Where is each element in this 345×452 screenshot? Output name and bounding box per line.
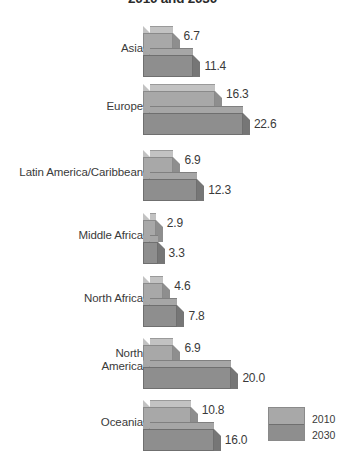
value-label-2010: 2.9 bbox=[167, 216, 183, 230]
bar-top-face bbox=[143, 26, 150, 33]
bar-side-face bbox=[177, 305, 184, 312]
bar-top-face bbox=[143, 150, 150, 157]
bar-top-face bbox=[143, 84, 150, 91]
category-label: Asia bbox=[121, 42, 143, 55]
bar-top-fill bbox=[150, 48, 193, 55]
bar-side-face bbox=[214, 429, 221, 436]
bar-top-fill bbox=[150, 84, 215, 91]
bar-top-face bbox=[143, 213, 150, 220]
bar-2030 bbox=[143, 242, 158, 264]
value-label-2010: 4.6 bbox=[174, 279, 190, 293]
legend-label-2030: 2030 bbox=[312, 429, 335, 441]
bar-side-fill bbox=[193, 62, 200, 77]
category-label: North Africa bbox=[84, 292, 143, 305]
value-label-2010: 6.9 bbox=[184, 153, 200, 167]
bar-side-face bbox=[173, 33, 180, 40]
bar-top-fill bbox=[150, 298, 177, 305]
bar-front-face bbox=[143, 305, 177, 327]
chart-root: 2010 and 2030 Asia6.711.4Europe16.322.6L… bbox=[0, 0, 345, 452]
bar-group: Asia6.711.4 bbox=[0, 26, 345, 83]
bar-group: Middle Africa2.93.3 bbox=[0, 213, 345, 270]
bar-top-fill bbox=[150, 26, 173, 33]
bar-group: Europe16.322.6 bbox=[0, 84, 345, 141]
bar-2030 bbox=[143, 179, 197, 201]
bar-side-fill bbox=[231, 374, 238, 389]
bar-side-face bbox=[243, 113, 250, 120]
bar-side-face bbox=[191, 407, 198, 414]
bar-side-fill bbox=[177, 312, 184, 327]
bar-group: North Africa4.67.8 bbox=[0, 276, 345, 333]
bar-front-face bbox=[143, 113, 243, 135]
bar-top-fill bbox=[150, 276, 163, 283]
bar-top-fill bbox=[150, 338, 173, 345]
bar-top-face bbox=[143, 106, 150, 113]
bar-side-face bbox=[158, 242, 165, 249]
bar-top-face bbox=[143, 172, 150, 179]
bar-top-face bbox=[143, 338, 150, 345]
bar-top-fill bbox=[150, 235, 158, 242]
bar-side-face bbox=[197, 179, 204, 186]
value-label-2010: 6.9 bbox=[184, 341, 200, 355]
legend-swatch bbox=[268, 407, 305, 441]
category-label: Latin America/Caribbean bbox=[19, 166, 143, 179]
bar-side-fill bbox=[214, 436, 221, 451]
bar-top-fill bbox=[150, 400, 191, 407]
bar-side-face bbox=[163, 283, 170, 290]
bar-group: North America6.920.0 bbox=[0, 338, 345, 395]
category-label: Oceania bbox=[101, 416, 143, 429]
bar-top-fill bbox=[150, 360, 231, 367]
bar-side-fill bbox=[197, 186, 204, 201]
bar-top-face bbox=[143, 422, 150, 429]
bar-2030 bbox=[143, 367, 231, 389]
bar-2030 bbox=[143, 55, 193, 77]
value-label-2030: 11.4 bbox=[204, 59, 226, 73]
bar-top-fill bbox=[150, 172, 197, 179]
bar-top-fill bbox=[150, 150, 173, 157]
value-label-2030: 20.0 bbox=[242, 371, 265, 385]
chart-title: 2010 and 2030 bbox=[0, 0, 345, 6]
bar-top-face bbox=[143, 298, 150, 305]
bar-front-face bbox=[143, 367, 231, 389]
bar-side-face bbox=[173, 157, 180, 164]
bar-top-fill bbox=[150, 106, 243, 113]
bar-front-face bbox=[143, 179, 197, 201]
bar-top-fill bbox=[150, 213, 156, 220]
bar-top-face bbox=[143, 235, 150, 242]
legend-swatch-2010 bbox=[269, 408, 304, 424]
bar-top-face bbox=[143, 400, 150, 407]
value-label-2030: 3.3 bbox=[169, 246, 185, 260]
bar-side-face bbox=[215, 91, 222, 98]
bar-2030 bbox=[143, 305, 177, 327]
bar-side-face bbox=[231, 367, 238, 374]
category-label: Europe bbox=[107, 100, 143, 113]
bar-front-face bbox=[143, 55, 193, 77]
value-label-2030: 12.3 bbox=[208, 183, 231, 197]
bar-2030 bbox=[143, 429, 214, 451]
category-label: North America bbox=[102, 347, 143, 372]
bar-group: Latin America/Caribbean6.912.3 bbox=[0, 150, 345, 207]
bar-top-fill bbox=[150, 422, 214, 429]
value-label-2030: 16.0 bbox=[225, 433, 248, 447]
bar-side-face bbox=[193, 55, 200, 62]
legend-swatch-2030 bbox=[269, 424, 304, 440]
bar-side-face bbox=[173, 345, 180, 352]
legend-label-2010: 2010 bbox=[312, 413, 335, 425]
bar-top-face bbox=[143, 360, 150, 367]
value-label-2010: 6.7 bbox=[184, 29, 200, 43]
category-label: Middle Africa bbox=[78, 229, 143, 242]
bar-side-fill bbox=[243, 120, 250, 135]
value-label-2010: 10.8 bbox=[202, 403, 225, 417]
value-label-2030: 22.6 bbox=[254, 117, 277, 131]
bar-side-fill bbox=[158, 249, 165, 264]
bar-side-face bbox=[156, 220, 163, 227]
bar-top-face bbox=[143, 276, 150, 283]
bar-front-face bbox=[143, 429, 214, 451]
bar-2030 bbox=[143, 113, 243, 135]
value-label-2010: 16.3 bbox=[226, 87, 249, 101]
value-label-2030: 7.8 bbox=[188, 309, 204, 323]
bar-front-face bbox=[143, 242, 158, 264]
bar-top-face bbox=[143, 48, 150, 55]
